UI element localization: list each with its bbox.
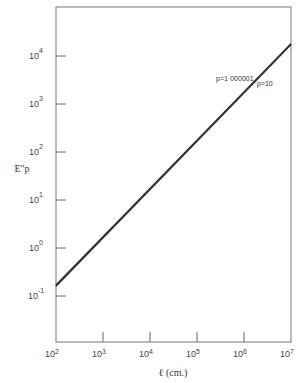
y-tick-label: 101: [29, 191, 43, 205]
y-axis-ticks: 10410310210110010-1: [28, 47, 66, 301]
series-lines: [56, 44, 291, 286]
y-tick-label: 102: [29, 143, 43, 157]
x-tick-label: 104: [139, 348, 153, 359]
x-tick-label: 105: [186, 348, 200, 359]
series-label-2: p=10: [257, 80, 273, 88]
x-tick-label: 102: [45, 348, 59, 359]
series-label-1: p=1·000001: [216, 75, 254, 83]
y-tick-label: 103: [29, 95, 43, 109]
series-line-2: [56, 44, 291, 286]
y-axis-label: E"p: [14, 163, 29, 174]
chart: 102103104105106107 10410310210110010-1 p…: [0, 0, 307, 383]
y-tick-label: 10-1: [28, 287, 44, 301]
plot-frame: [56, 7, 291, 342]
x-axis-label: ℓ (cm.): [159, 367, 188, 379]
y-tick-label: 100: [29, 239, 43, 253]
x-axis-ticks: 102103104105106107: [45, 332, 294, 359]
x-tick-label: 103: [92, 348, 106, 359]
series-labels: p=1·000001p=10: [216, 75, 273, 88]
x-tick-label: 106: [233, 348, 247, 359]
x-tick-label: 107: [280, 348, 294, 359]
y-tick-label: 104: [29, 47, 43, 61]
